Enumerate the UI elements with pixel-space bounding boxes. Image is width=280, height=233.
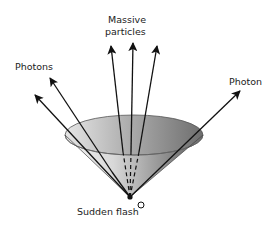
label-photons: Photons	[15, 61, 53, 72]
cone	[65, 115, 203, 197]
label-sudden-flash: Sudden flash	[77, 206, 139, 217]
label-photon: Photon	[229, 76, 262, 87]
flash-point	[127, 194, 132, 199]
label-massive-line2: particles	[105, 26, 146, 37]
label-massive-line1: Massive	[108, 14, 146, 25]
cone-diagram: Massive particles Photons Photon Sudden …	[0, 0, 280, 233]
origin-marker	[138, 202, 144, 208]
